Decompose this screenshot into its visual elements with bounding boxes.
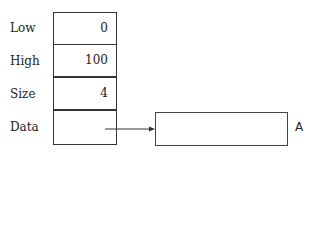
- array-box: [155, 112, 288, 146]
- array-label: A: [295, 120, 303, 134]
